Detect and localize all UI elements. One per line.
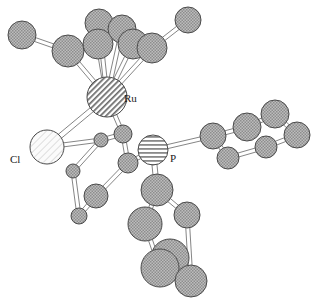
atom-c20 [217,147,239,169]
atom-c19 [255,136,277,158]
atom-sphere-c [128,207,162,241]
label-p: P [170,152,176,164]
atom-c7 [8,21,36,49]
molecule-canvas: RuClP [0,0,322,305]
atom-p [138,135,168,165]
atom-c26 [175,265,207,297]
atom-sphere-c [200,123,226,149]
atom-sphere-c [71,208,87,224]
atom-c4 [137,33,167,63]
molecular-structure-figure: RuClP [0,0,322,305]
atom-sphere-c [84,184,108,208]
atom-c14 [71,208,87,224]
atom-c23 [174,202,200,228]
atom-c10 [114,125,132,143]
atom-sphere-c [141,174,173,206]
atom-c11 [118,153,138,173]
atom-sphere-c [175,7,201,33]
atom-sphere-c [114,125,132,143]
atom-sphere-c [118,153,138,173]
atom-sphere-c [137,33,167,63]
atom-c12 [66,164,80,178]
atom-c15 [200,123,226,149]
atom-sphere-c [284,122,310,148]
atom-c17 [261,100,289,128]
atom-sphere-c [217,147,239,169]
atom-sphere-cl [30,130,64,164]
atom-c25 [141,249,179,287]
atom-layer [8,7,310,297]
atom-c18 [284,122,310,148]
atom-sphere-ru [87,77,127,117]
atom-sphere-c [175,265,207,297]
atom-sphere-p [138,135,168,165]
atom-c21 [141,174,173,206]
atom-cl [30,130,64,164]
atom-sphere-c [8,21,36,49]
atom-c13 [84,184,108,208]
atom-sphere-c [66,164,80,178]
atom-sphere-c [52,35,84,67]
atom-sphere-c [174,202,200,228]
atom-sphere-c [261,100,289,128]
atom-c8 [175,7,201,33]
atom-c22 [128,207,162,241]
label-ru: Ru [124,92,137,104]
atom-c2 [83,29,113,59]
atom-sphere-c [233,113,261,141]
atom-sphere-c [255,136,277,158]
atom-c1 [52,35,84,67]
atom-sphere-c [83,29,113,59]
atom-ru [87,77,127,117]
atom-sphere-c [141,249,179,287]
atom-c16 [233,113,261,141]
atom-sphere-c [94,133,108,147]
atom-c9 [94,133,108,147]
label-cl: Cl [10,153,20,165]
